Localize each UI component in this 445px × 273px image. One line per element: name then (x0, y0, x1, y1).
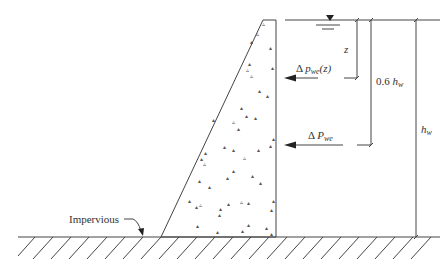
pressure-arrow-total (284, 142, 343, 149)
point6-hw-label: 0.6 hw (376, 75, 404, 89)
svg-text:▵: ▵ (250, 72, 253, 79)
z-label: z (343, 43, 349, 55)
delta-p-z-label: Δ pwe(z) (296, 62, 332, 76)
impervious-label: Impervious (69, 213, 119, 225)
svg-text:▵: ▵ (199, 201, 202, 208)
dam-diagram: ▵▵▴ ▴▴▵ ▵▴▴ ▴▴▴ ▴▴▵ ▴▴▴ ▴▴▴ ▵▴▴ ▵▴▴ ▴▴▴ … (0, 0, 445, 273)
dimension-lines (344, 18, 418, 239)
svg-text:▴: ▴ (226, 174, 229, 181)
svg-text:▴: ▴ (240, 104, 243, 111)
svg-text:▴: ▴ (196, 222, 199, 229)
svg-text:▴: ▴ (271, 64, 274, 71)
delta-P-total-label: Δ Pwe (308, 129, 333, 143)
svg-text:▴: ▴ (250, 38, 253, 45)
svg-text:▵: ▵ (262, 20, 265, 27)
svg-text:▴: ▴ (272, 135, 275, 142)
svg-text:▴: ▴ (270, 206, 273, 213)
svg-text:▵: ▵ (243, 154, 246, 161)
svg-text:▴: ▴ (232, 146, 235, 153)
dam-body: ▵▵▴ ▴▴▵ ▵▴▴ ▴▴▴ ▴▴▵ ▴▴▴ ▴▴▴ ▵▴▴ ▵▴▴ ▴▴▴ … (161, 20, 276, 237)
svg-text:▴: ▴ (265, 224, 268, 231)
svg-text:▴: ▴ (270, 230, 273, 237)
svg-text:▵: ▵ (256, 30, 259, 37)
svg-text:▵: ▵ (246, 66, 249, 73)
hw-label: hw (421, 123, 433, 137)
concrete-aggregate: ▵▵▴ ▴▴▵ ▵▴▴ ▴▴▴ ▴▴▵ ▴▴▴ ▴▴▴ ▵▴▴ ▵▴▴ ▴▴▴ … (188, 20, 275, 237)
svg-text:▴: ▴ (245, 112, 248, 119)
svg-text:▴: ▴ (212, 116, 215, 123)
svg-text:▵: ▵ (240, 198, 243, 205)
svg-text:▴: ▴ (247, 221, 250, 228)
svg-text:▴: ▴ (216, 228, 219, 235)
svg-text:▴: ▴ (241, 227, 244, 234)
svg-text:▴: ▴ (266, 92, 269, 99)
svg-text:▴: ▴ (188, 197, 191, 204)
ground-hatching (18, 237, 431, 259)
svg-text:▵: ▵ (203, 160, 206, 167)
svg-text:▴: ▴ (227, 200, 230, 207)
svg-text:▴: ▴ (195, 203, 198, 210)
svg-text:▴: ▴ (259, 179, 262, 186)
arrow-left-icon (284, 142, 296, 149)
svg-text:▵: ▵ (232, 118, 235, 125)
ground (18, 237, 440, 259)
svg-text:▴: ▴ (269, 44, 272, 51)
svg-text:▴: ▴ (257, 146, 260, 153)
svg-text:▴: ▴ (208, 183, 211, 190)
svg-text:▴: ▴ (237, 125, 240, 132)
svg-text:▴: ▴ (269, 142, 272, 149)
svg-text:▴: ▴ (198, 177, 201, 184)
svg-text:▴: ▴ (251, 172, 254, 179)
svg-text:▴: ▴ (254, 114, 257, 121)
svg-text:▴: ▴ (272, 197, 275, 204)
svg-text:▴: ▴ (204, 149, 207, 156)
svg-text:▴: ▴ (218, 211, 221, 218)
svg-text:▴: ▴ (247, 199, 250, 206)
impervious-leader (124, 219, 144, 236)
svg-text:▴: ▴ (223, 143, 226, 150)
water-surface (285, 15, 440, 29)
arrow-left-icon (284, 75, 296, 82)
svg-text:▴: ▴ (258, 87, 261, 94)
svg-text:▴: ▴ (232, 167, 235, 174)
